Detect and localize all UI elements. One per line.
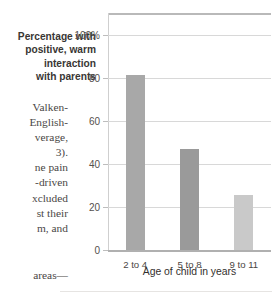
gridline [108,35,271,36]
y-axis-tick-label: 40 [89,158,100,169]
y-axis-tick [103,121,108,122]
bar [180,149,199,250]
y-axis-tick [103,164,108,165]
y-axis-tick [103,35,108,36]
bar-chart-figure: Percentage with positive, warm interacti… [0,0,272,301]
y-axis-tick-label: 20 [89,201,100,212]
y-axis-tick [103,207,108,208]
y-axis-line [108,13,109,252]
y-axis-tick-label: 100% [74,29,100,40]
x-axis-line [108,250,271,252]
y-axis-tick [103,250,108,251]
y-axis-tick-label: 60 [89,115,100,126]
y-axis-tick-label: 80 [89,72,100,83]
y-axis-tick-label: 0 [94,245,100,256]
y-axis-tick [103,78,108,79]
y-axis-title-line: with parents [0,70,96,83]
plot-top-border [108,13,271,15]
y-axis-title-line: interaction [0,57,96,70]
y-axis-title-line: positive, warm [0,43,96,56]
bar [126,75,145,250]
bar [234,195,253,250]
plot-area: 020406080100% 2 to 45 to 89 to 11 [108,13,271,252]
x-axis-title: Age of child in years [108,266,271,277]
page-rule-divider [60,291,272,292]
